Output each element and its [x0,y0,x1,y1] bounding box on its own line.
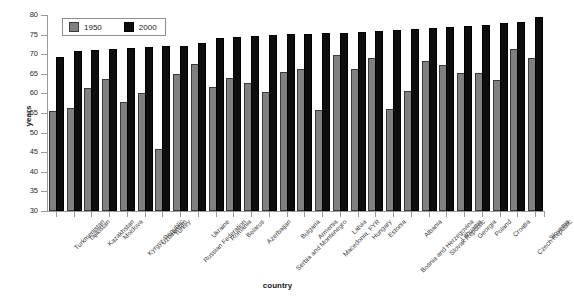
bar-group [155,15,169,211]
bar-group [457,15,471,211]
bar-group [84,15,98,211]
legend-label-1950: 1950 [84,23,102,32]
bar-group [102,15,116,211]
bar-group [191,15,205,211]
bar-2000 [375,31,383,211]
x-tick-label: Croatia [511,218,531,238]
x-tick [233,212,234,217]
x-tick [74,212,75,217]
bar-2000 [411,29,419,211]
bar-group [510,15,524,211]
x-tick [216,212,217,217]
bar-group [528,15,542,211]
x-tick [162,212,163,217]
bar-2000 [464,26,472,211]
bar-group [280,15,294,211]
x-tick [535,212,536,217]
bar-2000 [446,27,454,211]
x-tick [180,212,181,217]
y-tick-label: 35 [20,187,38,195]
bar-2000 [340,33,348,211]
bar-2000 [500,23,508,211]
x-tick [56,212,57,217]
x-tick-label: Azerbaijan [265,218,292,245]
bar-group [262,15,276,211]
bar-group [120,15,134,211]
bar-group [315,15,329,211]
x-tick [464,212,465,217]
bar-group [404,15,418,211]
bar-2000 [287,34,295,211]
bar-2000 [198,43,206,211]
plot-area [47,15,544,211]
bar-2000 [162,46,170,211]
x-axis-tick-labels: TurkmenistanTajikistanKazakhstanMoldovaK… [47,218,547,276]
x-tick [109,212,110,217]
bar-group [368,15,382,211]
x-tick-label: Serbia and Montenegro [294,218,348,272]
bar-2000 [482,25,490,211]
x-tick [482,212,483,217]
legend-item-1950: 1950 [69,22,102,32]
x-tick-label: Albania [422,218,443,239]
legend-swatch-2000 [124,22,134,32]
y-tick-label: 40 [20,168,38,176]
bar-group [49,15,63,211]
x-tick [322,212,323,217]
x-tick [393,212,394,217]
x-tick [287,212,288,217]
x-tick [198,212,199,217]
x-axis-line [47,211,545,212]
bar-group [439,15,453,211]
bar-group [138,15,152,211]
bar-2000 [233,37,241,211]
bar-group [493,15,507,211]
legend-label-2000: 2000 [139,23,157,32]
y-tick-label: 80 [20,11,38,19]
y-tick [41,211,47,212]
bar-group [475,15,489,211]
y-tick-label: 50 [20,129,38,137]
bar-group [67,15,81,211]
bar-group [297,15,311,211]
legend-swatch-1950 [69,22,79,32]
legend-item-2000: 2000 [124,22,157,32]
bar-2000 [429,28,437,211]
bar-2000 [216,38,224,211]
bar-2000 [393,30,401,211]
bar-2000 [304,34,312,211]
bar-group [226,15,240,211]
x-tick [358,212,359,217]
y-tick-label: 45 [20,148,38,156]
bar-group [173,15,187,211]
bar-2000 [180,46,188,211]
bar-group [422,15,436,211]
bar-2000 [251,36,259,211]
x-tick [375,212,376,217]
x-tick [500,212,501,217]
bar-2000 [109,49,117,211]
x-axis-title: country [0,281,555,290]
x-tick [127,212,128,217]
y-tick-label: 55 [20,109,38,117]
y-tick-label: 30 [20,207,38,215]
bar-2000 [145,47,153,211]
bar-group [209,15,223,211]
x-tick [304,212,305,217]
x-tick [517,212,518,217]
bar-group [333,15,347,211]
x-tick [251,212,252,217]
y-tick-label: 60 [20,89,38,97]
x-tick-label: Slovenia [548,218,571,241]
bar-2000 [127,48,135,211]
bar-2000 [74,51,82,211]
x-tick [544,212,545,217]
x-tick [91,212,92,217]
y-tick-label: 75 [20,31,38,39]
y-tick-label: 70 [20,50,38,58]
x-tick [429,212,430,217]
chart-legend: 1950 2000 [62,18,166,36]
x-tick [411,212,412,217]
bar-2000 [322,33,330,211]
